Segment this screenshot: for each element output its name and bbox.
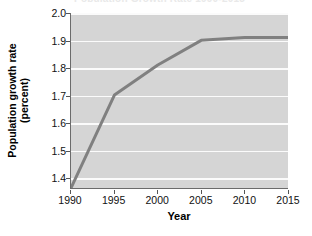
plot-area <box>70 13 288 189</box>
x-axis-tick-label: 2010 <box>224 194 264 206</box>
y-axis-tick-mark <box>66 151 70 152</box>
y-axis-title-line1: Population growth rate <box>6 43 18 157</box>
y-axis-tick-label: 2.0 <box>40 8 66 18</box>
clipped-chart-title: Population Growth Rate 1990-2015 <box>52 0 267 2</box>
data-series-line <box>71 13 288 188</box>
y-axis-tick-label: 1.7 <box>40 91 66 101</box>
y-axis-tick-mark <box>66 13 70 14</box>
y-axis-title: Population growth rate (percent) <box>0 0 36 200</box>
figure-chart: Population Growth Rate 1990-2015 Populat… <box>0 0 312 236</box>
x-axis-tick-label: 2000 <box>137 194 177 206</box>
y-axis-tick-label: 1.6 <box>40 118 66 128</box>
y-axis-tick-label: 1.8 <box>40 63 66 73</box>
y-axis-tick-label: 1.5 <box>40 146 66 156</box>
x-axis-title: Year <box>70 210 288 222</box>
x-axis-tick-label: 1990 <box>50 194 90 206</box>
y-axis-tick-mark <box>66 96 70 97</box>
y-axis-tick-mark <box>66 68 70 69</box>
y-axis-tick-mark <box>66 178 70 179</box>
x-axis-tick-label: 2015 <box>268 194 308 206</box>
y-axis-tick-label: 1.4 <box>40 173 66 183</box>
x-axis-tick-label: 2005 <box>181 194 221 206</box>
y-axis-title-line2: (percent) <box>18 43 30 157</box>
y-axis-tick-mark <box>66 123 70 124</box>
x-axis-tick-label: 1995 <box>94 194 134 206</box>
y-axis-tick-label: 1.9 <box>40 36 66 46</box>
plot-inner <box>71 13 288 188</box>
y-axis-tick-mark <box>66 41 70 42</box>
